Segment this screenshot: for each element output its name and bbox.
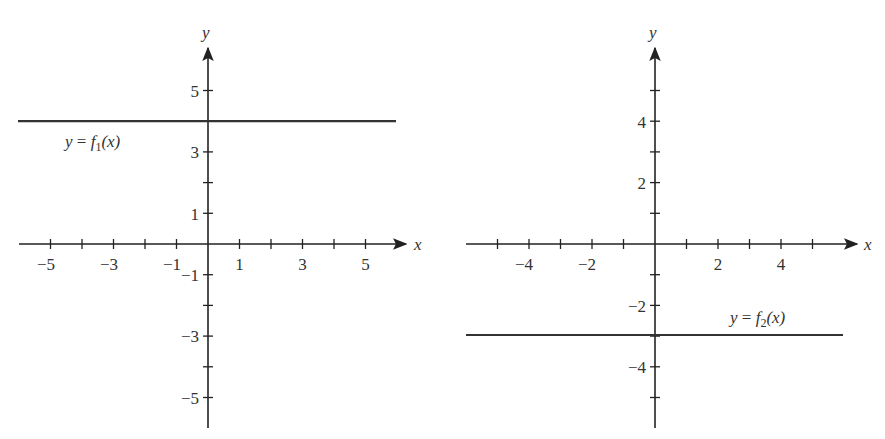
x-tick-label: −5 [37,255,55,274]
y-axis-label: y [200,23,210,42]
y-tick-labels: 5 3 1 −1 −3 −5 [181,82,199,408]
y-tick-label: −4 [628,358,647,377]
figure: y x −5 −3 −1 1 3 5 5 3 1 −1 −3 −5 y = f1… [0,0,885,439]
x-tick-labels: −5 −3 −1 1 3 5 [37,255,370,274]
x-axis-label: x [863,235,872,254]
y-tick-label: 1 [191,205,200,224]
x-tick-label: 4 [777,255,786,274]
y-tick-label: 4 [638,113,647,132]
function-label-f2: y = f2(x) [728,308,786,330]
x-tick-label: −4 [515,255,534,274]
y-tick-label: 5 [191,82,200,101]
x-tick-label: −2 [578,255,596,274]
x-tick-label: 2 [714,255,723,274]
x-axis-label: x [413,235,422,254]
x-tick-label: 5 [361,255,370,274]
y-tick-label: 3 [191,143,200,162]
x-tick-label: 3 [298,255,307,274]
y-tick-labels: 4 2 −2 −4 [628,113,647,377]
y-tick-label: −3 [181,327,199,346]
function-label-f1: y = f1(x) [63,132,121,154]
y-tick-label: −1 [181,266,199,285]
x-tick-label: −3 [100,255,118,274]
y-tick-label: −5 [181,389,199,408]
x-tick-labels: −4 −2 2 4 [515,255,786,274]
right-graph: y x −4 −2 2 4 4 2 −2 −4 y = f2(x) [466,23,872,428]
y-axis-label: y [647,23,657,42]
left-graph: y x −5 −3 −1 1 3 5 5 3 1 −1 −3 −5 y = f1… [18,23,422,428]
x-tick-label: −1 [163,255,181,274]
y-tick-label: 2 [638,174,647,193]
x-tick-label: 1 [235,255,244,274]
y-tick-label: −2 [628,297,646,316]
